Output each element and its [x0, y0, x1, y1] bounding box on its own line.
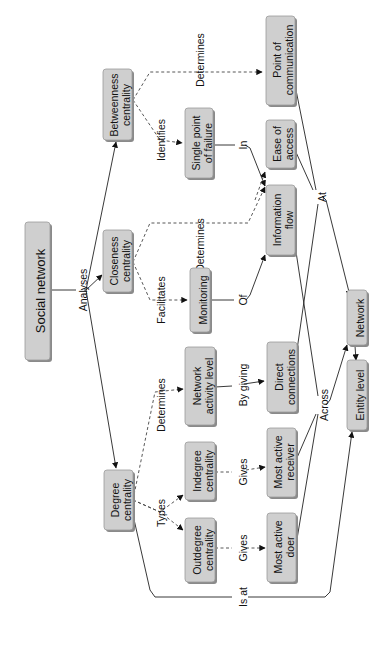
node-most-active-doer: Most active doer: [267, 513, 298, 584]
node-label: centrality: [203, 528, 215, 571]
node-label: Entity level: [354, 370, 366, 421]
edge-label-of: Of: [237, 294, 249, 305]
node-label: activity level: [203, 358, 215, 415]
node-label: flow: [283, 210, 295, 229]
edge-label-facilitates: Facilitates: [155, 276, 167, 323]
node-label: Degree: [109, 483, 121, 518]
node-label: Outdegree: [191, 525, 203, 575]
node-label: receiver: [284, 443, 296, 481]
node-label: connections: [285, 349, 297, 405]
node-ease-of-access: Ease of access: [266, 120, 297, 170]
edge-label-in: In: [237, 140, 249, 149]
node-label: Betweenness: [108, 73, 120, 136]
node-social-network: Social network: [25, 222, 52, 362]
node-direct-connections: Direct connections: [267, 342, 299, 414]
node-label: Network: [354, 298, 366, 337]
node-degree-centrality: Degree centrality: [104, 470, 135, 532]
node-label: Single point: [190, 115, 202, 170]
edge-label-determines-if: Determines: [194, 218, 206, 272]
node-information-flow: Information flow: [266, 185, 297, 257]
edge-label-at: At: [316, 192, 328, 202]
concept-map: Analyses Identifies Determines Determine…: [0, 0, 380, 650]
edge-label-types: Types: [155, 499, 167, 527]
node-point-of-communication: Point of communication: [266, 16, 297, 107]
node-label: Direct: [273, 363, 285, 391]
node-entity-level: Entity level: [347, 360, 369, 432]
node-betweenness-centrality: Betweenness centrality: [103, 69, 134, 142]
edge-label-identifies: Identifies: [155, 119, 167, 161]
edge-label-gives-in: Gives: [237, 459, 249, 486]
node-label: Information: [271, 194, 283, 247]
node-label: Monitoring: [197, 275, 209, 324]
node-label: doer: [284, 536, 296, 558]
edge-label-is-at: Is at: [237, 587, 249, 607]
node-label: Social network: [33, 248, 48, 333]
node-label: communication: [283, 25, 295, 96]
node-label: access: [283, 128, 295, 161]
node-label: centrality: [203, 449, 215, 492]
edge-label-determines-nal: Determines: [155, 378, 167, 432]
node-single-point-of-failure: Single point of failure: [185, 108, 215, 180]
node-most-active-receiver: Most active receiver: [267, 428, 298, 499]
node-network-activity-level: Network activity level: [185, 347, 217, 427]
node-label: Ease of: [271, 126, 283, 162]
node-label: Most active: [272, 435, 284, 488]
edge-label-determines-pc: Determines: [194, 33, 206, 87]
node-label: Point of: [271, 42, 283, 78]
node-label: centrality: [121, 478, 133, 521]
node-label: centrality: [120, 239, 132, 282]
node-label: centrality: [120, 83, 132, 126]
node-monitoring: Monitoring: [190, 268, 212, 334]
node-label: Most active: [272, 520, 284, 573]
node-label: Network: [191, 366, 203, 405]
node-outdegree-centrality: Outdegree centrality: [185, 518, 217, 584]
node-network: Network: [347, 290, 369, 347]
node-label: Closeness: [108, 236, 120, 285]
edge-label-across: Across: [318, 389, 330, 421]
node-closeness-centrality: Closeness centrality: [103, 230, 134, 294]
node-label: of failure: [202, 123, 214, 163]
edge-label-analyses: Analyses: [77, 269, 89, 312]
node-indegree-centrality: Indegree centrality: [185, 442, 217, 502]
node-label: Indegree: [191, 450, 203, 492]
edge-label-by-giving: By giving: [237, 364, 249, 407]
edge-label-gives-out: Gives: [237, 535, 249, 562]
